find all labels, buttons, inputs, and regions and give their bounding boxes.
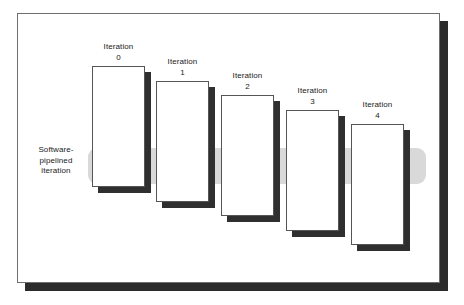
iteration-label-3-word: Iteration <box>274 86 351 97</box>
iteration-label-4-word: Iteration <box>339 100 416 111</box>
iteration-box-2 <box>221 95 274 216</box>
software-pipelined-iteration-label: Software- pipelined iteration <box>24 145 88 177</box>
iteration-block-3: Iteration 3 <box>286 110 339 231</box>
iteration-box-3 <box>286 110 339 231</box>
iteration-block-0: Iteration 0 <box>92 66 145 187</box>
caption-line-2: pipelined <box>24 156 88 167</box>
iteration-label-4-index: 4 <box>339 111 416 122</box>
iteration-block-2: Iteration 2 <box>221 95 274 216</box>
iteration-label-2-word: Iteration <box>209 71 286 82</box>
caption-line-3: iteration <box>24 166 88 177</box>
iteration-label-0-word: Iteration <box>80 42 157 53</box>
iteration-block-4: Iteration 4 <box>351 124 404 245</box>
iteration-box-4 <box>351 124 404 245</box>
iteration-label-1-word: Iteration <box>144 57 221 68</box>
iteration-label-4: Iteration 4 <box>339 100 416 121</box>
iteration-box-0 <box>92 66 145 187</box>
caption-line-1: Software- <box>24 145 88 156</box>
diagram-canvas: Software- pipelined iteration Iteration … <box>0 0 464 305</box>
iteration-box-1 <box>156 81 209 202</box>
iteration-block-1: Iteration 1 <box>156 81 209 202</box>
